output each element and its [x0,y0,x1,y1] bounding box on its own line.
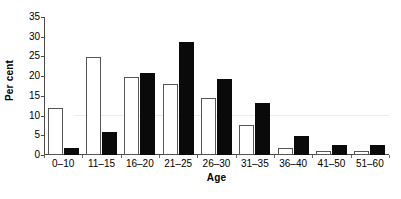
x-axis-title: Age [44,172,389,183]
x-tick-label: 41–50 [318,158,346,170]
x-tick-label: 21–25 [164,158,192,170]
y-tick-label: 20 [29,71,40,81]
y-tick-mark [41,56,44,57]
x-tick-label: 0–10 [52,158,74,170]
bar-black-bars-16–20 [140,73,155,155]
bar-black-bars-41–50 [332,145,347,155]
y-tick-label: 10 [29,111,40,121]
y-tick-mark [41,96,44,97]
y-tick-label: 35 [29,12,40,22]
bar-white-bars-26–30 [201,98,216,155]
x-tick-mark [389,155,390,158]
bar-white-bars-16–20 [124,77,139,155]
y-tick-mark [41,135,44,136]
bar-black-bars-0–10 [64,148,79,155]
x-tick-label: 36–40 [279,158,307,170]
x-tick-label: 51–60 [356,158,384,170]
bar-white-bars-11–15 [86,57,101,155]
bar-white-bars-51–60 [354,151,369,155]
bar-white-bars-41–50 [316,151,331,155]
bar-white-bars-0–10 [48,108,63,155]
y-axis-title: Per cent [2,0,18,160]
x-axis-tick-labels: 0–1011–1516–2021–2526–3031–3536–4041–505… [44,158,389,172]
y-tick-label: 25 [29,51,40,61]
bar-black-bars-21–25 [179,42,194,155]
plot-area [44,17,389,155]
bar-black-bars-11–15 [102,132,117,155]
bar-chart: Per cent 05101520253035 0–1011–1516–2021… [0,0,401,199]
bar-black-bars-36–40 [294,136,309,155]
y-axis-title-text: Per cent [5,59,16,100]
bar-black-bars-26–30 [217,79,232,155]
x-tick-label: 16–20 [126,158,154,170]
bar-black-bars-31–35 [255,103,270,155]
y-axis-line [44,17,45,155]
bar-black-bars-51–60 [370,145,385,155]
bar-white-bars-36–40 [278,148,293,155]
y-tick-label: 0 [34,150,40,160]
y-tick-label: 30 [29,32,40,42]
y-tick-label: 15 [29,91,40,101]
bar-white-bars-21–25 [163,84,178,155]
y-tick-label: 5 [34,130,40,140]
y-tick-mark [41,37,44,38]
y-tick-mark [41,76,44,77]
bar-white-bars-31–35 [239,125,254,155]
y-tick-mark [41,116,44,117]
y-axis-tick-labels: 05101520253035 [18,11,40,155]
x-tick-label: 26–30 [203,158,231,170]
y-tick-mark [41,17,44,18]
x-tick-label: 31–35 [241,158,269,170]
x-tick-label: 11–15 [88,158,115,170]
